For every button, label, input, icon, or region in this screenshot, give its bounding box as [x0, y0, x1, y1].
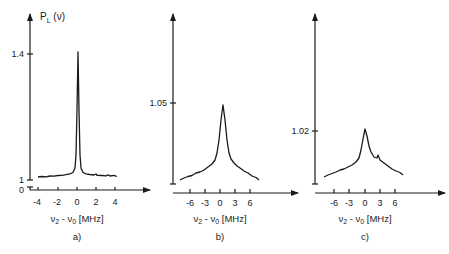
y-tick-1-4: 1.4 — [11, 49, 24, 59]
y-tick-0: 0 — [19, 185, 24, 195]
x-ticks-c: -6 -3 0 3 6 — [330, 198, 398, 208]
x-ticks-a: -4 -2 0 2 4 — [33, 197, 118, 207]
svg-text:0: 0 — [217, 198, 222, 208]
svg-text:-3: -3 — [201, 198, 209, 208]
panel-label-c: c) — [361, 231, 369, 242]
svg-text:0: 0 — [362, 198, 367, 208]
y-tick-1-02: 1.02 — [291, 126, 309, 136]
svg-text:6: 6 — [247, 198, 252, 208]
svg-text:6: 6 — [392, 198, 397, 208]
curve-c — [324, 129, 403, 177]
svg-text:-6: -6 — [186, 198, 194, 208]
svg-text:3: 3 — [377, 198, 382, 208]
svg-text:-4: -4 — [33, 197, 41, 207]
panel-label-a: a) — [73, 231, 81, 242]
svg-text:3: 3 — [232, 198, 237, 208]
figure: 1.4 1 0 PL (ν) -4 -2 0 2 4 ν2 - ν0 [MHz]… — [0, 0, 449, 254]
svg-text:4: 4 — [112, 197, 117, 207]
svg-text:-3: -3 — [345, 198, 353, 208]
curve-a — [38, 52, 117, 177]
x-axis-label-a: ν2 - ν0 [MHz] — [50, 213, 103, 225]
panel-b: 1.05 -6 -3 0 3 6 ν2 - ν0 [MHz] b) — [149, 14, 298, 242]
svg-text:-6: -6 — [330, 198, 338, 208]
x-axis-label-b: ν2 - ν0 [MHz] — [193, 213, 246, 225]
y-tick-1: 1 — [19, 175, 24, 185]
y-tick-1-05: 1.05 — [149, 98, 167, 108]
curve-b — [180, 105, 259, 180]
x-axis-label-c: ν2 - ν0 [MHz] — [338, 213, 391, 225]
svg-text:2: 2 — [93, 197, 98, 207]
panel-label-b: b) — [216, 231, 224, 242]
panel-c: 1.02 -6 -3 0 3 6 ν2 - ν0 [MHz] c) — [291, 14, 445, 242]
x-ticks-b: -6 -3 0 3 6 — [186, 198, 253, 208]
panel-a: 1.4 1 0 PL (ν) -4 -2 0 2 4 ν2 - ν0 [MHz]… — [11, 11, 150, 242]
svg-text:0: 0 — [74, 197, 79, 207]
y-axis-label: PL (ν) — [40, 11, 65, 24]
svg-text:-2: -2 — [53, 197, 61, 207]
